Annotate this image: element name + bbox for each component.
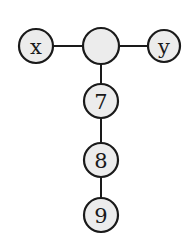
node-center [83, 28, 119, 64]
node-label: 9 [94, 204, 107, 228]
node-n8: 8 [84, 143, 118, 177]
nodes-group: xy789 [19, 28, 180, 232]
node-n7: 7 [84, 84, 118, 118]
node-label: 8 [94, 149, 107, 173]
node-label: 7 [94, 90, 107, 114]
node-label: y [157, 35, 170, 59]
node-n9: 9 [84, 198, 118, 232]
tree-diagram: xy789 [0, 0, 194, 242]
node-y: y [148, 30, 180, 62]
node-circle [83, 28, 119, 64]
edges-group [36, 46, 164, 215]
node-label: x [30, 35, 42, 59]
node-x: x [19, 29, 53, 63]
